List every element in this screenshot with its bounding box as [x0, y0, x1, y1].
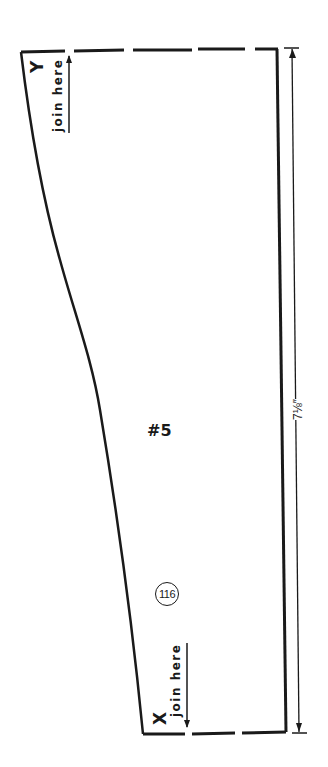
pattern-outline [0, 0, 328, 767]
dimension-label: 7⅛″ [289, 399, 307, 420]
piece-number-circle: 116 [155, 582, 179, 606]
dimension-line [292, 49, 299, 732]
curved-edge [21, 52, 143, 734]
join-marker-y-text: join here [51, 59, 65, 132]
top-edge [21, 51, 65, 52]
bottom-edge-dashed [192, 732, 286, 734]
join-marker-x-letter: X [150, 712, 170, 725]
right-edge [277, 49, 286, 732]
piece-label: #5 [147, 421, 172, 440]
join-marker-y-letter: Y [27, 61, 47, 73]
join-marker-x-text: join here [169, 644, 183, 717]
piece-number: 116 [159, 588, 175, 600]
top-edge-dashed [74, 49, 278, 51]
